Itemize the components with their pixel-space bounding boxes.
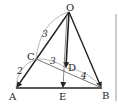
length-CA: 2 bbox=[16, 66, 23, 76]
label-E: E bbox=[59, 91, 66, 102]
label-A: A bbox=[8, 91, 17, 102]
length-CD: 3 bbox=[50, 56, 56, 66]
geometry-diagram: O C D A E B 3 2 3 4 bbox=[0, 0, 118, 105]
length-DB: 4 bbox=[80, 71, 87, 81]
label-D: D bbox=[68, 62, 76, 73]
label-O: O bbox=[66, 2, 74, 13]
label-B: B bbox=[102, 90, 109, 101]
vector-OA bbox=[17, 12, 69, 87]
length-OC: 3 bbox=[42, 29, 48, 39]
label-C: C bbox=[27, 51, 35, 62]
